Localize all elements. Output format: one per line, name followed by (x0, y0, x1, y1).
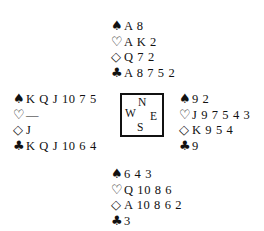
spade-icon: ♠ (111, 166, 124, 182)
compass-box: N W E S (120, 93, 164, 137)
spade-icon: ♠ (13, 91, 26, 107)
north-diamonds-row: ◇Q 7 2 (111, 49, 175, 65)
north-clubs: A 8 7 5 2 (124, 66, 175, 80)
south-spades: 6 4 3 (124, 167, 152, 181)
heart-icon: ♡ (13, 107, 26, 123)
compass-west-label: W (125, 107, 136, 119)
north-spades-row: ♠A 8 (111, 18, 175, 34)
north-spades: A 8 (124, 19, 144, 33)
south-hand: ♠6 4 3 ♡Q 10 8 6 ◇A 10 8 6 2 ♣3 (111, 166, 182, 228)
diamond-icon: ◇ (13, 122, 26, 138)
club-icon: ♣ (179, 138, 192, 154)
east-clubs-row: ♣9 (179, 138, 250, 154)
east-spades: 9 2 (192, 92, 209, 106)
south-hearts-row: ♡Q 10 8 6 (111, 182, 182, 198)
heart-icon: ♡ (179, 107, 192, 123)
south-spades-row: ♠6 4 3 (111, 166, 182, 182)
spade-icon: ♠ (179, 91, 192, 107)
west-hearts: — (26, 108, 39, 122)
diamond-icon: ◇ (179, 122, 192, 138)
heart-icon: ♡ (111, 182, 124, 198)
north-hand: ♠A 8 ♡A K 2 ◇Q 7 2 ♣A 8 7 5 2 (111, 18, 175, 80)
west-spades-row: ♠K Q J 10 7 5 (13, 91, 97, 107)
west-spades: K Q J 10 7 5 (26, 92, 97, 106)
heart-icon: ♡ (111, 34, 124, 50)
compass-north-label: N (138, 96, 146, 108)
south-clubs: 3 (124, 214, 131, 228)
compass-south-label: S (137, 121, 143, 133)
north-clubs-row: ♣A 8 7 5 2 (111, 65, 175, 81)
club-icon: ♣ (111, 65, 124, 81)
south-hearts: Q 10 8 6 (124, 183, 172, 197)
west-hearts-row: ♡— (13, 107, 97, 123)
west-clubs: K Q J 10 6 4 (26, 139, 97, 153)
east-hearts-row: ♡J 9 7 5 4 3 (179, 107, 250, 123)
east-hand: ♠9 2 ♡J 9 7 5 4 3 ◇K 9 5 4 ♣9 (179, 91, 250, 153)
west-clubs-row: ♣K Q J 10 6 4 (13, 138, 97, 154)
east-diamonds-row: ◇K 9 5 4 (179, 122, 250, 138)
diamond-icon: ◇ (111, 197, 124, 213)
east-clubs: 9 (192, 139, 199, 153)
club-icon: ♣ (111, 213, 124, 229)
club-icon: ♣ (13, 138, 26, 154)
east-spades-row: ♠9 2 (179, 91, 250, 107)
south-diamonds: A 10 8 6 2 (124, 198, 182, 212)
west-diamonds: J (26, 123, 31, 137)
south-clubs-row: ♣3 (111, 213, 182, 229)
compass-east-label: E (150, 110, 157, 122)
south-diamonds-row: ◇A 10 8 6 2 (111, 197, 182, 213)
north-hearts: A K 2 (124, 35, 157, 49)
spade-icon: ♠ (111, 18, 124, 34)
east-diamonds: K 9 5 4 (192, 123, 233, 137)
diamond-icon: ◇ (111, 49, 124, 65)
east-hearts: J 9 7 5 4 3 (192, 108, 250, 122)
west-hand: ♠K Q J 10 7 5 ♡— ◇J ♣K Q J 10 6 4 (13, 91, 97, 153)
north-hearts-row: ♡A K 2 (111, 34, 175, 50)
north-diamonds: Q 7 2 (124, 50, 155, 64)
west-diamonds-row: ◇J (13, 122, 97, 138)
